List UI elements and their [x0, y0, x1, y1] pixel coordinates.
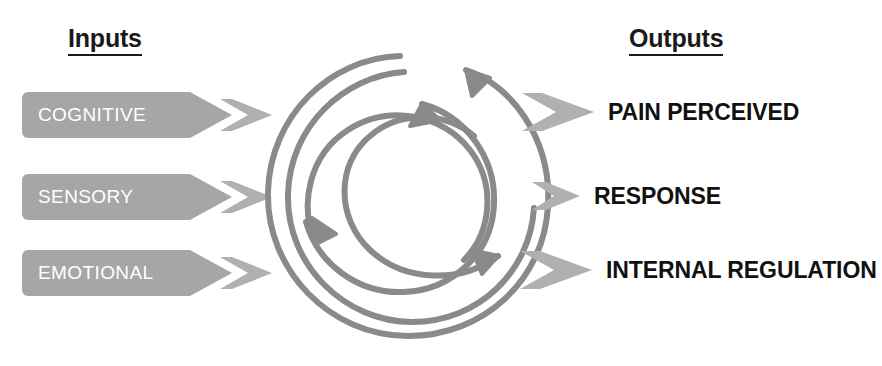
output-item-pain-perceived: PAIN PERCEIVED: [520, 90, 799, 134]
inputs-column-header: Inputs: [68, 26, 142, 56]
input-banner-shape: [22, 250, 232, 296]
output-label-pain-perceived: PAIN PERCEIVED: [608, 101, 799, 124]
output-item-internal-regulation: INTERNAL REGULATION: [518, 248, 877, 292]
outputs-column-header: Outputs: [629, 26, 723, 56]
input-item-sensory: SENSORY: [22, 174, 272, 220]
input-banner-shape: [22, 92, 232, 138]
input-banner-shape: [22, 174, 232, 220]
input-item-cognitive: COGNITIVE: [22, 92, 272, 138]
output-item-response: RESPONSE: [530, 174, 721, 218]
diagram-root: Inputs Outputs COGNITIVE SENSORY: [0, 0, 882, 366]
output-label-response: RESPONSE: [594, 185, 721, 208]
right-arrow-icon: [518, 246, 594, 294]
outputs-header-text: Outputs: [629, 26, 723, 56]
output-label-internal-regulation: INTERNAL REGULATION: [606, 259, 877, 282]
right-arrow-icon: [530, 178, 582, 214]
interlocking-circular-arrows-icon: [252, 44, 562, 354]
inputs-header-text: Inputs: [68, 26, 142, 56]
right-arrow-icon: [520, 88, 596, 136]
input-item-emotional: EMOTIONAL: [22, 250, 272, 296]
